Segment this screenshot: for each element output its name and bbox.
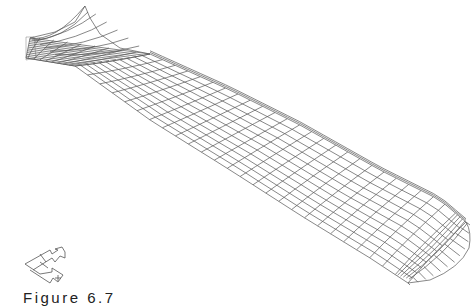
- figure-caption: Figure 6.7: [23, 290, 116, 305]
- blade-mesh: [26, 6, 470, 285]
- axis-triad-icon: [25, 247, 65, 283]
